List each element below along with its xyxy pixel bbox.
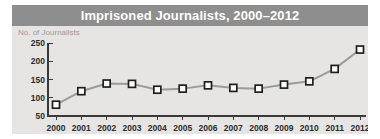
data-point-marker <box>53 101 60 108</box>
data-point-marker <box>306 78 313 85</box>
y-axis-tick-labels: 50100150200250 <box>31 38 45 121</box>
data-point-marker <box>281 81 288 88</box>
chart-axes <box>48 43 366 116</box>
plot-area: 50100150200250 2000200120022003200420052… <box>12 36 368 134</box>
x-axis-tick-label: 2012 <box>351 123 368 133</box>
data-point-marker <box>78 88 85 95</box>
y-axis-tick-label: 100 <box>31 93 45 103</box>
x-axis-tick-label: 2000 <box>47 123 66 133</box>
x-axis-tick-label: 2007 <box>224 123 243 133</box>
x-axis-tick-label: 2004 <box>148 123 167 133</box>
data-point-marker <box>357 46 364 53</box>
x-axis-tick-label: 2005 <box>173 123 192 133</box>
data-point-marker <box>103 80 110 87</box>
x-axis-tick-marks <box>56 116 360 120</box>
x-axis-tick-label: 2008 <box>249 123 268 133</box>
y-axis-tick-label: 200 <box>31 56 45 66</box>
page-title: Imprisoned Journalists, 2000–2012 <box>81 8 300 23</box>
x-axis-tick-label: 2011 <box>325 123 344 133</box>
x-axis-tick-label: 2009 <box>275 123 294 133</box>
x-axis-tick-label: 2010 <box>300 123 319 133</box>
data-point-marker <box>154 86 161 93</box>
line-chart-svg: 50100150200250 2000200120022003200420052… <box>12 36 368 134</box>
data-series-line <box>56 50 360 105</box>
chart-figure: Imprisoned Journalists, 2000–2012 No. of… <box>0 0 380 139</box>
data-point-marker <box>205 82 212 89</box>
data-point-marker <box>230 84 237 91</box>
y-axis-tick-label: 150 <box>31 75 45 85</box>
data-point-marker <box>129 80 136 87</box>
data-point-marker <box>179 85 186 92</box>
data-point-marker <box>255 85 262 92</box>
x-axis-tick-label: 2001 <box>72 123 91 133</box>
x-axis-tick-label: 2003 <box>123 123 142 133</box>
chart-title-bar: Imprisoned Journalists, 2000–2012 <box>12 5 368 26</box>
x-axis-tick-label: 2006 <box>199 123 218 133</box>
x-axis-tick-label: 2002 <box>97 123 116 133</box>
y-axis-tick-label: 50 <box>36 111 46 121</box>
x-axis-tick-labels: 2000200120022003200420052006200720082009… <box>47 123 368 133</box>
data-point-marker <box>331 65 338 72</box>
y-axis-tick-label: 250 <box>31 38 45 48</box>
